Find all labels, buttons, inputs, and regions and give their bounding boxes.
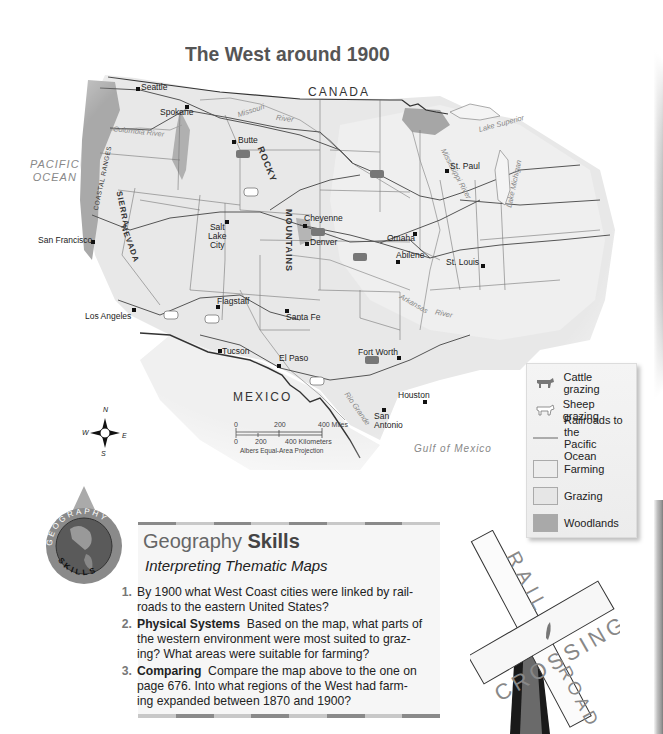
city-butte: Butte: [238, 136, 258, 145]
scale-miles-0: 0: [234, 421, 238, 428]
city-san-francisco: San Francisco: [38, 236, 92, 245]
city-salt-lake-city: Salt Lake City: [208, 223, 226, 250]
city-san-antonio: San Antonio: [374, 412, 403, 430]
grazing-swatch: [533, 487, 558, 505]
legend-item-railroads: Railroads to the Pacific Ocean: [533, 423, 630, 453]
city-el-paso: El Paso: [279, 354, 308, 363]
legend-item-cattle: Cattle grazing: [533, 372, 630, 394]
scale-miles-400: 400 Miles: [318, 421, 348, 428]
city-dot-houston: [423, 400, 427, 404]
label-mexico: MEXICO: [233, 391, 292, 403]
city-dot-st-louis: [481, 264, 485, 268]
city-st-paul: St. Paul: [450, 162, 480, 171]
city-dot-abilene: [396, 260, 400, 264]
scale-km-400: 400 Kilometers: [285, 438, 332, 445]
skills-subtitle: Interpreting Thematic Maps: [145, 557, 328, 574]
city-dot-el-paso: [277, 364, 281, 368]
sheep-icon: [533, 404, 557, 416]
city-fort-worth: Fort Worth: [358, 348, 398, 357]
label-pacific-ocean: PACIFIC OCEAN: [30, 158, 80, 183]
city-dot-st-paul: [445, 169, 449, 173]
label-missouri-river: River: [276, 114, 294, 124]
city-santa-fe: Santa Fe: [286, 313, 321, 322]
city-dot-seattle: [136, 87, 140, 91]
geography-skills-panel: Geography Skills Interpreting Thematic M…: [100, 520, 440, 720]
city-st-louis: St. Louis: [446, 258, 479, 267]
scale-km-0: 0: [234, 438, 238, 445]
city-tucson: Tucson: [222, 347, 250, 356]
label-canada: CANADA: [308, 86, 370, 98]
scale-km-200: 200: [255, 438, 267, 445]
skills-bottom-bar: [138, 714, 440, 718]
legend-item-grazing: Grazing: [533, 485, 630, 507]
geography-skills-globe-icon: GEOGRAPHY SKILLS: [40, 484, 128, 594]
svg-text:GEOGRAPHY: GEOGRAPHY: [45, 507, 110, 546]
city-los-angeles: Los Angeles: [85, 312, 131, 321]
question-2: 2. Physical Systems Based on the map, wh…: [116, 617, 436, 662]
scale-projection: Albers Equal-Area Projection: [240, 448, 323, 455]
city-dot-butte: [232, 140, 236, 144]
city-houston: Houston: [398, 391, 430, 400]
railroad-line-icon: [533, 436, 558, 440]
question-3: 3. Comparing Compare the map above to th…: [116, 664, 436, 709]
city-dot-denver: [305, 242, 309, 246]
svg-text:SKILLS: SKILLS: [56, 556, 99, 577]
cattle-icon: [533, 377, 558, 389]
city-omaha: Omaha: [387, 234, 415, 243]
city-seattle: Seattle: [141, 83, 167, 92]
city-abilene: Abilene: [396, 251, 424, 260]
city-dot-cheyenne: [303, 224, 307, 228]
city-dot-los-angeles: [132, 308, 136, 312]
compass-rose-icon: N S W E: [80, 408, 130, 458]
farming-swatch: [533, 460, 558, 478]
city-flagstaff: Flagstaff: [217, 297, 249, 306]
map-legend: Cattle grazing Sheep grazing Railroads t…: [526, 363, 637, 538]
city-cheyenne: Cheyenne: [304, 214, 343, 223]
skills-title: Geography Skills: [143, 530, 300, 553]
question-1: 1. By 1900 what West Coast cities were l…: [116, 585, 436, 615]
label-mountains: MOUNTAINS: [284, 209, 293, 272]
label-gulf-of-mexico: Gulf of Mexico: [414, 443, 492, 455]
city-denver: Denver: [310, 238, 337, 247]
city-spokane: Spokane: [160, 108, 194, 117]
scale-miles-200: 200: [274, 421, 286, 428]
railroad-crossing-sign-image: RAIL CROSSING ROAD: [470, 530, 620, 734]
skills-questions: 1. By 1900 what West Coast cities were l…: [116, 585, 436, 711]
